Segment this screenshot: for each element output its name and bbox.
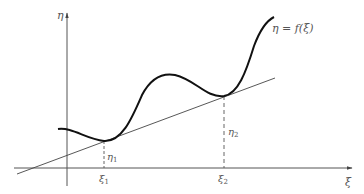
eta1-label: η1 bbox=[107, 151, 117, 164]
tangent-line bbox=[17, 78, 275, 174]
eta2-label: η2 bbox=[228, 126, 238, 139]
x-axis-label: ξ bbox=[345, 176, 352, 189]
function-curve bbox=[58, 17, 274, 141]
y-axis-label: η bbox=[57, 9, 64, 22]
xi1-label: ξ1 bbox=[99, 173, 109, 186]
xi2-label: ξ2 bbox=[218, 173, 228, 186]
diagram-canvas: η ξ η = f(ξ) η1 η2 ξ1 ξ2 bbox=[0, 0, 364, 194]
curve-label: η = f(ξ) bbox=[272, 22, 314, 35]
